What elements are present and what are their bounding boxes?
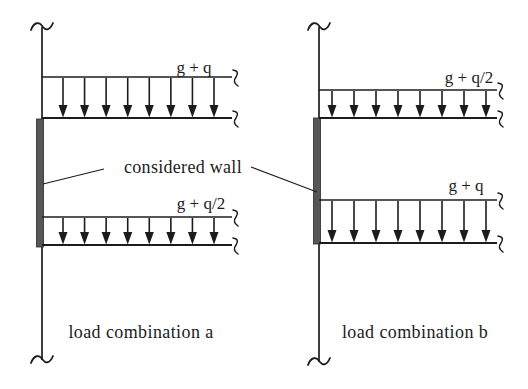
load-arrow-head	[416, 230, 425, 243]
load-arrow-head	[123, 232, 132, 245]
load-label-bottom-b: g + q	[448, 176, 484, 195]
considered-wall-label: considered wall	[124, 157, 242, 177]
load-arrow-head	[394, 105, 403, 118]
load-arrow-head	[166, 232, 175, 245]
load-arrow-head	[145, 232, 154, 245]
load-arrow-head	[80, 232, 89, 245]
load-arrow-head	[350, 230, 359, 243]
load-label-top-b: g + q/2	[445, 68, 493, 87]
figure-b-caption: load combination b	[342, 322, 488, 342]
load-label-top-a: g + q	[176, 58, 212, 77]
load-arrow-head	[438, 230, 447, 243]
load-arrow-head	[394, 230, 403, 243]
load-arrow-head	[482, 230, 491, 243]
load-arrow-head	[210, 105, 219, 118]
line-break-mark	[233, 70, 238, 86]
diagram-page: g + q g + q/2 load combination a g + q/2…	[0, 0, 528, 389]
leader-line	[251, 167, 317, 192]
load-arrow-head	[460, 105, 469, 118]
load-arrow-head	[59, 232, 68, 245]
load-arrow-head	[59, 105, 68, 118]
load-arrow-head	[350, 105, 359, 118]
figure-a: g + q g + q/2 load combination a	[31, 23, 238, 363]
load-arrow-head	[102, 232, 111, 245]
figure-a-caption: load combination a	[68, 322, 213, 342]
load-arrow-head	[460, 230, 469, 243]
load-arrow-head	[416, 105, 425, 118]
figure-b: g + q/2 g + q load combination b	[308, 23, 503, 365]
load-arrow-head	[328, 230, 337, 243]
load-arrow-head	[166, 105, 175, 118]
load-arrow-head	[210, 232, 219, 245]
load-arrow-head	[102, 105, 111, 118]
load-arrow-head	[372, 230, 381, 243]
load-arrow-head	[123, 105, 132, 118]
line-break-mark	[498, 193, 503, 209]
line-break-mark	[498, 111, 503, 127]
load-arrow-head	[372, 105, 381, 118]
load-arrow-head	[482, 105, 491, 118]
load-arrow-head	[80, 105, 89, 118]
considered-wall-segment	[314, 118, 321, 244]
annotation: considered wall	[43, 157, 317, 192]
line-break-mark	[233, 238, 238, 254]
considered-wall-segment	[37, 119, 44, 247]
load-arrow-head	[188, 232, 197, 245]
load-arrow-head	[328, 105, 337, 118]
load-arrow-head	[145, 105, 154, 118]
load-arrow-head	[188, 105, 197, 118]
diagram-canvas: g + q g + q/2 load combination a g + q/2…	[0, 0, 528, 389]
load-arrow-head	[438, 105, 447, 118]
leader-line	[43, 169, 104, 184]
line-break-mark	[498, 83, 503, 99]
line-break-mark	[498, 236, 503, 252]
line-break-mark	[233, 210, 238, 226]
load-label-bottom-a: g + q/2	[177, 194, 225, 213]
line-break-mark	[233, 111, 238, 127]
